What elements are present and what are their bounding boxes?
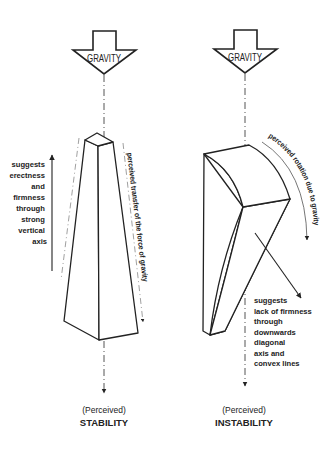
diagonal-arrow-icon [255,233,301,298]
svg-text:suggests erectness: suggests erectness and firmness through … [9,160,47,246]
instability-note: suggests lack of firmness through downwa… [254,296,314,368]
stability-note: suggests erectness and firmness through … [9,160,47,246]
gravity-label: GRAVITY [87,53,121,64]
instability-caption-sub: (Perceived) [222,405,266,415]
stability-caption-sub: (Perceived) [82,405,126,415]
stability-caption: STABILITY [80,417,129,428]
svg-text:suggests lack of firmn: suggests lack of firmness through downwa… [254,296,314,368]
gravity-arrow-icon: GRAVITY [214,30,277,73]
stability-figure: GRAVITY suggests erectness and firmness … [9,31,149,428]
gravity-arrow-icon: GRAVITY [73,31,136,74]
gravity-perception-diagram: GRAVITY suggests erectness and firmness … [0,0,335,456]
gravity-label: GRAVITY [228,52,262,63]
instability-caption: INSTABILITY [215,417,274,428]
instability-figure: GRAVITY perceived rotation due to gravit… [203,30,321,428]
